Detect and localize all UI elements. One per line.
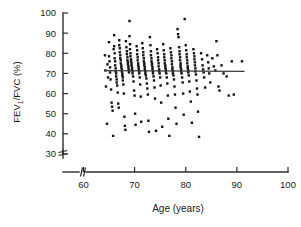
data-point [140,95,142,97]
data-point [193,52,195,54]
data-point [136,59,138,61]
data-point [104,54,106,56]
data-point [123,92,125,94]
data-point [123,116,125,118]
data-point [136,49,138,51]
data-point [105,85,107,87]
data-point [176,28,178,30]
data-point [159,84,161,86]
data-point [231,60,233,62]
data-point [129,43,131,45]
y-tick-label-100: 100 [40,7,56,18]
chart-canvas: 30405060708090100 60708090100 Age (years… [0,0,301,227]
data-point [173,85,175,87]
data-point [241,60,243,62]
data-point [108,60,110,62]
data-point [122,83,124,85]
data-point [163,56,165,58]
data-point [170,51,172,53]
data-point [157,56,159,58]
data-point [118,44,120,46]
data-point [186,53,188,55]
data-point [160,101,162,103]
data-point [186,59,188,61]
data-point [119,47,121,49]
data-point [178,53,180,55]
data-point [196,93,198,95]
y-tick-label-30: 30 [45,148,56,159]
x-tick-label-80: 80 [180,179,191,190]
data-point [170,54,172,56]
data-point [201,64,203,66]
data-point [179,59,181,61]
data-point [131,72,133,74]
data-point [150,50,152,52]
data-point [193,55,195,57]
data-point [220,64,222,66]
data-point [204,86,206,88]
data-point [218,89,220,91]
data-point [156,52,158,54]
data-point [114,67,116,69]
data-point [138,72,140,74]
data-point [208,67,210,69]
data-point [193,58,195,60]
data-point [225,75,227,77]
data-point [217,85,219,87]
data-point [159,76,161,78]
data-point [155,130,157,132]
data-point [119,51,121,53]
data-point [207,61,209,63]
x-axis-group [63,167,288,177]
data-point [192,48,194,50]
data-point [182,92,184,94]
data-point [133,89,135,91]
data-point [154,97,156,99]
data-point [150,54,152,56]
x-tick-label-90: 90 [232,179,243,190]
y-title-pre: FEV [11,104,22,123]
data-point [125,40,127,42]
data-point [132,80,134,82]
data-point [209,81,211,83]
data-point [173,78,175,80]
data-point [233,93,235,95]
data-point [186,62,188,64]
y-tick-marks [63,13,68,154]
data-point [118,106,120,108]
svg-text:FEV1/FVC (%): FEV1/FVC (%) [11,61,24,122]
data-point [161,126,163,128]
data-point [177,33,179,35]
data-point [135,45,137,47]
figure-scatter-fev1fvc-vs-age: 30405060708090100 60708090100 Age (years… [0,0,301,227]
data-point [142,51,144,53]
data-point [142,47,144,49]
y-axis-break-icon [59,150,68,158]
data-point [179,56,181,58]
data-point [125,46,127,48]
data-point [112,135,114,137]
data-point [128,71,130,73]
data-point [140,121,142,123]
data-point [194,64,196,66]
data-point [157,59,159,61]
y-tick-label-40: 40 [45,128,56,139]
data-point [119,54,121,56]
data-point [129,55,131,57]
data-point [174,93,176,95]
data-point [122,76,124,78]
data-point [190,100,192,102]
data-point [169,47,171,49]
data-point [139,76,141,78]
data-point [115,81,117,83]
data-point [194,67,196,69]
data-point [106,123,108,125]
x-tick-labels: 60708090100 [78,179,296,190]
data-point [215,40,217,42]
data-point [109,66,111,68]
data-point [211,57,213,59]
data-point [128,35,130,37]
data-point [124,129,126,131]
data-point [170,57,172,59]
data-point [108,41,110,43]
